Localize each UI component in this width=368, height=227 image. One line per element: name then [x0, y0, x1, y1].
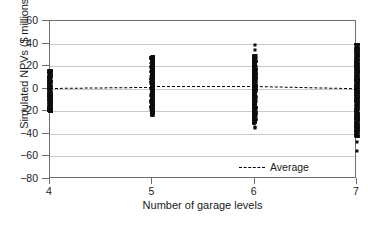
y-tick-label: 60 — [0, 14, 38, 26]
gridline — [50, 111, 355, 112]
data-point — [356, 136, 359, 138]
y-tick-mark — [42, 178, 49, 179]
legend-label-average: Average — [270, 161, 309, 173]
legend: Average — [239, 161, 309, 173]
gridline — [50, 44, 355, 45]
y-tick-label: −20 — [0, 104, 38, 116]
y-tick-label: 40 — [0, 37, 38, 49]
y-tick-label: −40 — [0, 127, 38, 139]
y-tick-mark — [42, 43, 49, 44]
x-tick-mark — [49, 178, 50, 184]
y-tick-mark — [42, 20, 49, 21]
plot-area: Average — [49, 20, 356, 178]
x-tick-label: 4 — [34, 185, 64, 197]
legend-dash-icon — [239, 167, 265, 168]
y-tick-label: −80 — [0, 172, 38, 184]
x-tick-label: 5 — [136, 185, 166, 197]
chart-figure: Simulated NPVs ($ millions) 6040200−20−4… — [0, 0, 368, 227]
x-tick-mark — [254, 178, 255, 184]
data-point-outlier — [253, 49, 256, 52]
y-tick-label: −60 — [0, 149, 38, 161]
y-tick-mark — [42, 65, 49, 66]
data-point-outlier — [253, 43, 256, 46]
gridline — [50, 156, 355, 157]
average-line-segment — [152, 86, 254, 87]
gridline — [50, 66, 355, 67]
data-point-outlier — [356, 140, 359, 143]
x-tick-mark — [356, 178, 357, 184]
y-tick-mark — [42, 133, 49, 134]
data-point-outlier — [253, 127, 256, 130]
x-axis-title: Number of garage levels — [49, 199, 356, 211]
data-point — [151, 115, 154, 117]
y-tick-label: 20 — [0, 59, 38, 71]
gridline — [50, 134, 355, 135]
data-point-outlier — [356, 149, 359, 152]
x-tick-label: 7 — [341, 185, 368, 197]
data-point — [252, 123, 255, 125]
y-tick-label: 0 — [0, 82, 38, 94]
gridline — [50, 89, 355, 90]
x-tick-label: 6 — [239, 185, 269, 197]
data-point — [49, 111, 52, 113]
y-tick-mark — [42, 155, 49, 156]
x-tick-mark — [151, 178, 152, 184]
